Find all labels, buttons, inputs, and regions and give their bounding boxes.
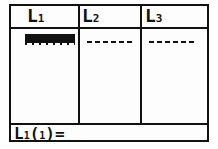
entry-suffix: )=	[45, 124, 64, 143]
header-index: 3	[156, 12, 163, 25]
entry-prefix: (	[30, 124, 40, 143]
column-header-l3[interactable]: L3	[145, 6, 162, 26]
header-letter: L	[82, 5, 93, 26]
header-letter: L	[27, 5, 38, 26]
header-index: 2	[93, 12, 100, 25]
l2-empty-marker[interactable]	[87, 41, 135, 43]
entry-line[interactable]: L1(1)=	[14, 125, 65, 141]
selection-cursor[interactable]	[25, 34, 75, 43]
selection-cursor-edge	[25, 43, 75, 45]
entry-list: L	[14, 124, 24, 143]
header-index: 1	[38, 12, 45, 25]
l3-empty-marker[interactable]	[149, 41, 197, 43]
column-header-l2[interactable]: L2	[82, 6, 99, 26]
calculator-screen: L1 L2 L3 L1(1)=	[9, 4, 209, 142]
header-letter: L	[145, 5, 156, 26]
column-divider-1	[78, 6, 80, 123]
header-divider	[11, 27, 207, 29]
column-divider-2	[140, 6, 142, 123]
column-header-l1[interactable]: L1	[27, 6, 44, 26]
